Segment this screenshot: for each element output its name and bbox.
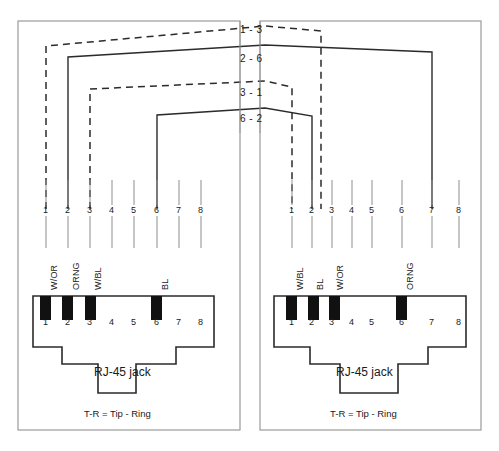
left-jack-pin: 1 [43, 318, 48, 327]
diagram-canvas [0, 0, 499, 451]
left-jack-pin: 6 [154, 318, 159, 327]
right-tip-ring-note: T-R = Tip - Ring [330, 409, 397, 419]
left-wire-label-pin6: BL [161, 279, 170, 290]
left-pin-number: 3 [87, 206, 92, 215]
right-jack-pin: 2 [309, 318, 314, 327]
left-jack-pin: 4 [109, 318, 114, 327]
right-jack-title: RJ-45 jack [336, 366, 393, 378]
crossover-label-1-3: 1 - 3 [240, 25, 263, 35]
right-pin-number: 2 [309, 206, 314, 215]
right-wire-label-pin3: W/OR [336, 265, 345, 290]
right-jack-pin: 7 [429, 318, 434, 327]
left-pin-number: 7 [176, 206, 181, 215]
left-pin-number: 1 [43, 206, 48, 215]
left-jack-pin: 2 [65, 318, 70, 327]
left-jack-pin: 5 [131, 318, 136, 327]
right-jack-pin: 1 [289, 318, 294, 327]
crossover-label-6-2: 6 - 2 [240, 114, 263, 124]
crossover-label-3-1: 3 - 1 [240, 88, 263, 98]
wiring-diagram: 1 2 3 4 5 6 7 8 W/OR ORNG W/BL BL 1 2 3 … [0, 0, 499, 451]
right-pin-number: 5 [369, 206, 374, 215]
left-pin-number: 2 [65, 206, 70, 215]
left-pin-number: 4 [109, 206, 114, 215]
right-pin-number: 8 [456, 206, 461, 215]
right-jack-pin: 8 [456, 318, 461, 327]
right-jack-pin: 5 [369, 318, 374, 327]
wire-2-to-6 [68, 45, 432, 209]
left-wire-label-pin1: W/OR [50, 265, 59, 290]
left-wire-label-pin2: ORNG [72, 262, 81, 290]
left-pin-number: 5 [131, 206, 136, 215]
left-tip-ring-note: T-R = Tip - Ring [84, 409, 151, 419]
right-pin-number: 4 [349, 206, 354, 215]
left-jack-title: RJ-45 jack [94, 366, 151, 378]
crossover-label-2-6: 2 - 6 [240, 54, 263, 64]
wire-6-to-2 [157, 108, 312, 209]
left-jack-pin: 3 [87, 318, 92, 327]
right-pin-number: 6 [399, 206, 404, 215]
left-jack-pin: 7 [176, 318, 181, 327]
right-pin-number: 7 [429, 206, 434, 215]
right-jack-pin: 6 [399, 318, 404, 327]
wire-3-to-1 [90, 81, 292, 209]
right-jack-pin: 3 [329, 318, 334, 327]
right-wire-label-pin6: ORNG [406, 262, 415, 290]
wire-1-to-3 [46, 26, 321, 209]
right-pin-number: 1 [289, 206, 294, 215]
right-wire-label-pin2: BL [316, 279, 325, 290]
right-wire-label-pin1: W/BL [296, 267, 305, 290]
left-wire-label-pin3: W/BL [94, 267, 103, 290]
left-pin-number: 6 [154, 206, 159, 215]
right-pin-number: 3 [329, 206, 334, 215]
left-pin-number: 8 [198, 206, 203, 215]
right-jack-pin: 4 [349, 318, 354, 327]
left-jack-pin: 8 [198, 318, 203, 327]
